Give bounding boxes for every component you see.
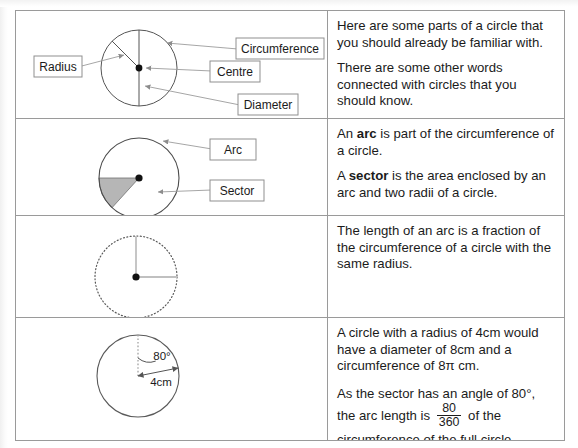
label-circumference-text: Circumference	[241, 42, 319, 56]
eighty-degree-sector-diagram: 80° 4cm	[16, 318, 328, 440]
label-centre-text: Centre	[217, 65, 253, 79]
centre-dot	[136, 65, 143, 72]
leader-arc	[163, 141, 212, 149]
radius-dimension-arrow	[138, 368, 178, 376]
page-canvas: Radius Circumference Centre	[0, 0, 578, 448]
label-radius: Radius	[34, 56, 82, 77]
sector-shaded-region	[99, 178, 139, 208]
centre-dot	[135, 174, 142, 181]
paragraph-prefix: An	[337, 126, 357, 141]
label-arc-text: Arc	[224, 143, 242, 157]
fraction-80-over-360: 80360	[437, 402, 462, 429]
text-cell: A circle with a radius of 4cm would have…	[328, 318, 564, 440]
diagram-cell: Radius Circumference Centre	[16, 11, 328, 118]
diagram-cell: Arc Sector	[16, 119, 328, 215]
label-diameter: Diameter	[238, 94, 298, 115]
leader-diameter	[145, 86, 240, 105]
paragraph: Here are some parts of a circle that you…	[337, 18, 554, 51]
label-arc: Arc	[210, 139, 256, 160]
paragraph: A circle with a radius of 4cm would have…	[337, 325, 554, 375]
scan-edge-top	[0, 0, 578, 7]
leader-circumference	[167, 43, 238, 49]
diagram-cell: 80° 4cm	[16, 318, 328, 440]
leader-centre	[146, 68, 212, 71]
paragraph-prefix: A	[337, 168, 349, 183]
text-cell: The length of an arc is a fraction of th…	[328, 216, 564, 317]
paragraph: The length of an arc is a fraction of th…	[337, 223, 554, 273]
label-angle-80: 80°	[153, 350, 170, 362]
paragraph: A sector is the area enclosed by an arc …	[337, 168, 554, 201]
table-row: 80° 4cm A circle with a radius of 4cm wo…	[16, 318, 564, 440]
fraction-denominator: 360	[437, 415, 462, 429]
table-row: Arc Sector An arc is part of the circumf…	[16, 119, 564, 216]
label-diameter-text: Diameter	[244, 98, 293, 112]
leader-sector	[158, 190, 212, 192]
label-circumference: Circumference	[236, 38, 324, 59]
circle-reference-table: Radius Circumference Centre	[15, 10, 565, 441]
dotted-circle-diagram	[16, 216, 328, 317]
arc-sector-diagram: Arc Sector	[16, 119, 328, 215]
paragraph: An arc is part of the circumference of a…	[337, 126, 554, 159]
circle-parts-diagram: Radius Circumference Centre	[16, 11, 328, 118]
radius-line	[112, 41, 139, 68]
scan-edge-left	[0, 0, 8, 448]
paragraph: As the sector has an angle of 80°, the a…	[337, 384, 554, 441]
paragraph-bold-term: sector	[349, 168, 389, 183]
text-cell: Here are some parts of a circle that you…	[328, 11, 564, 118]
label-sector: Sector	[210, 180, 264, 201]
table-row: Radius Circumference Centre	[16, 11, 564, 119]
label-sector-text: Sector	[220, 184, 255, 198]
paragraph-bold-term: arc	[357, 126, 377, 141]
table-row: The length of an arc is a fraction of th…	[16, 216, 564, 318]
fraction-numerator: 80	[437, 402, 462, 415]
label-radius-4cm: 4cm	[150, 376, 172, 388]
text-cell: An arc is part of the circumference of a…	[328, 119, 564, 215]
label-radius-text: Radius	[39, 60, 76, 74]
centre-dot	[132, 273, 139, 280]
label-centre: Centre	[210, 61, 260, 82]
paragraph: There are some other words connected wit…	[337, 60, 554, 110]
diagram-cell	[16, 216, 328, 317]
